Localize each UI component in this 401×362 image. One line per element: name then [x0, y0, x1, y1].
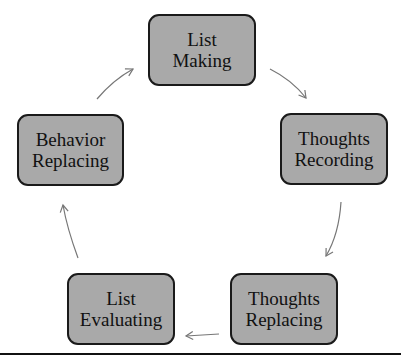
arrow-list-evaluating-to-behavior-replacing: [63, 205, 78, 258]
node-behavior-replacing: Behavior Replacing: [17, 114, 124, 186]
arrow-list-making-to-thoughts-recording: [270, 69, 306, 98]
node-list-evaluating: List Evaluating: [67, 273, 175, 345]
node-thoughts-recording: Thoughts Recording: [280, 113, 388, 185]
node-label-line2: Making: [172, 50, 231, 71]
node-label-line1: Behavior: [36, 129, 106, 150]
arrow-thoughts-recording-to-thoughts-replacing: [326, 202, 341, 256]
node-label-line1: List: [187, 29, 217, 50]
node-label-line2: Replacing: [32, 150, 109, 171]
node-label-line2: Evaluating: [80, 309, 162, 330]
arrow-thoughts-replacing-to-list-evaluating: [186, 334, 219, 336]
bottom-divider: [0, 353, 401, 355]
node-label-line1: List: [106, 288, 136, 309]
node-label-line2: Replacing: [245, 309, 322, 330]
node-label-line1: Thoughts: [298, 128, 370, 149]
node-list-making: List Making: [148, 14, 256, 86]
arrow-behavior-replacing-to-list-making: [97, 69, 133, 99]
node-label-line1: Thoughts: [248, 288, 320, 309]
node-label-line2: Recording: [294, 149, 373, 170]
node-thoughts-replacing: Thoughts Replacing: [230, 273, 338, 345]
